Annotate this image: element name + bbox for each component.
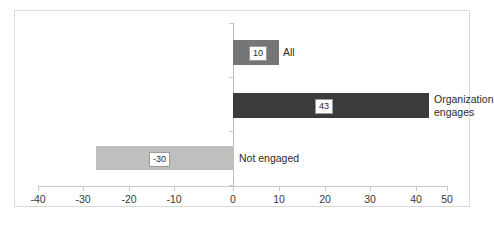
bar-category-label-organization-engages: Organization engages xyxy=(434,93,494,119)
x-axis-tick-label: 40 xyxy=(410,193,422,206)
x-axis-tick xyxy=(174,187,175,191)
x-axis-tick-label: 10 xyxy=(273,193,285,206)
x-axis-tick-label: 50 xyxy=(441,193,453,206)
x-axis-tick xyxy=(370,187,371,191)
x-axis-tick xyxy=(83,187,84,191)
category-axis-tick xyxy=(229,77,233,78)
x-axis-tick-label: 20 xyxy=(319,193,331,206)
x-axis-tick-label: -10 xyxy=(166,193,181,206)
x-axis-tick xyxy=(38,187,39,191)
plot-area: 10 All 43 Organization engages -30 Not e… xyxy=(38,23,448,175)
x-axis-line xyxy=(38,186,448,187)
x-axis-tick xyxy=(279,187,280,191)
x-axis-tick xyxy=(447,187,448,191)
bar-category-label-all: All xyxy=(283,46,295,59)
category-axis-tick xyxy=(229,23,233,24)
x-axis-tick xyxy=(325,187,326,191)
x-axis-tick xyxy=(416,187,417,191)
x-axis-tick xyxy=(233,187,234,191)
x-axis-tick-label: 30 xyxy=(364,193,376,206)
chart-frame: 10 All 43 Organization engages -30 Not e… xyxy=(14,10,470,207)
x-axis-tick-label: 0 xyxy=(230,193,236,206)
bar-category-label-not-engaged: Not engaged xyxy=(239,152,299,165)
x-axis-tick-label: -40 xyxy=(30,193,45,206)
bar-value-label-all: 10 xyxy=(249,46,267,61)
x-axis-tick-label: -30 xyxy=(75,193,90,206)
x-axis-tick-label: -20 xyxy=(121,193,136,206)
category-axis-tick xyxy=(229,131,233,132)
bar-value-label-not-engaged: -30 xyxy=(149,152,170,167)
x-axis-tick xyxy=(129,187,130,191)
bar-value-label-organization-engages: 43 xyxy=(315,99,333,114)
